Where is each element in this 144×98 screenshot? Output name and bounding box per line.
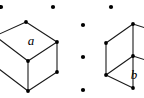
shape-label-a: a (28, 33, 35, 48)
separator-dot-mid-1 (81, 55, 85, 59)
par-edge-mid (106, 56, 133, 75)
cube-vertex-dot-4 (26, 89, 30, 93)
par-vertex-dot-2 (104, 73, 108, 77)
par-vertex-dot-3 (131, 54, 135, 58)
cube-vertex-dot-3 (55, 70, 59, 74)
cube-vertex-dot-2 (26, 59, 30, 63)
separator-dot-mid-0 (81, 23, 85, 27)
cube-edge-bottom-left (0, 66, 28, 91)
cube-edge-front-left (0, 36, 28, 61)
separator-dot-mid-2 (81, 88, 85, 92)
separator-dot-top-1 (51, 5, 55, 9)
separator-dot-top-0 (0, 5, 3, 9)
cube-edge-top-left (0, 22, 26, 36)
cube-vertex-dot-1 (55, 40, 59, 44)
geometric-figure: ab (0, 0, 144, 98)
figure-canvas: ab (0, 0, 144, 98)
par-vertex-dot-1 (104, 41, 108, 45)
par-vertex-dot-4 (131, 86, 135, 90)
separator-dot-top-2 (109, 5, 113, 9)
shape-left-cube: a (0, 20, 59, 93)
shape-right-parallelepiped: b (104, 22, 144, 90)
cube-vertex-dot-0 (24, 20, 28, 24)
cube-edge-bottom-right (28, 72, 57, 91)
par-edge-top (106, 24, 133, 43)
par-vertex-dot-0 (131, 22, 135, 26)
par-edge-bottom-left (106, 75, 133, 88)
shape-label-b: b (131, 67, 138, 82)
